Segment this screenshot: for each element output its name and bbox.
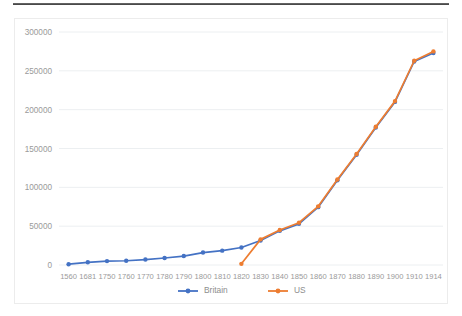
x-axis-tick-label: 1830 [252, 272, 269, 281]
x-axis-tick-label: 1780 [156, 272, 173, 281]
y-axis-tick-label: 0 [47, 261, 52, 270]
legend-label-us[interactable]: US [294, 285, 306, 295]
x-axis-tick-label: 1870 [329, 272, 346, 281]
data-point-britain[interactable] [220, 248, 224, 252]
x-axis-tick-label: 1860 [310, 272, 327, 281]
legend-marker-us [276, 289, 281, 294]
legend-marker-britain [186, 289, 191, 294]
data-point-us[interactable] [278, 228, 282, 232]
data-point-us[interactable] [258, 237, 262, 241]
chart-legend: BritainUS [178, 285, 306, 295]
y-axis-tick-label: 300000 [25, 28, 53, 37]
x-axis-tick-label: 1820 [233, 272, 250, 281]
chart-plot-wrapper: 050000100000150000200000250000300000 156… [15, 19, 449, 305]
y-axis-tick-labels: 050000100000150000200000250000300000 [25, 28, 53, 270]
data-point-us[interactable] [335, 177, 339, 181]
legend-label-britain[interactable]: Britain [204, 285, 228, 295]
gridlines-group [59, 32, 443, 265]
data-point-britain[interactable] [66, 262, 70, 266]
y-axis-tick-label: 100000 [25, 183, 53, 192]
x-axis-tick-labels: 1560168117501760177017801790180018101820… [60, 272, 442, 281]
data-point-britain[interactable] [105, 259, 109, 263]
x-axis-tick-label: 1910 [406, 272, 423, 281]
data-point-britain[interactable] [86, 260, 90, 264]
data-point-britain[interactable] [182, 254, 186, 258]
data-point-britain[interactable] [201, 250, 205, 254]
series-line-britain [69, 53, 434, 264]
data-point-us[interactable] [239, 262, 243, 266]
line-chart: 050000100000150000200000250000300000 156… [15, 19, 449, 305]
x-axis-tick-label: 1890 [367, 272, 384, 281]
x-axis-tick-label: 1800 [195, 272, 212, 281]
data-point-britain[interactable] [143, 257, 147, 261]
data-point-us[interactable] [354, 152, 358, 156]
x-axis-tick-label: 1560 [60, 272, 77, 281]
top-divider-rule [13, 3, 449, 5]
data-point-us[interactable] [374, 125, 378, 129]
x-axis-tick-label: 1840 [271, 272, 288, 281]
x-axis-tick-label: 1900 [387, 272, 404, 281]
data-point-us[interactable] [316, 204, 320, 208]
x-axis-tick-label: 1750 [99, 272, 116, 281]
data-series-group [66, 49, 435, 266]
chart-container: 050000100000150000200000250000300000 156… [14, 18, 448, 304]
x-axis-tick-label: 1681 [79, 272, 96, 281]
data-point-britain[interactable] [124, 259, 128, 263]
y-axis-tick-label: 200000 [25, 106, 53, 115]
y-axis-tick-label: 50000 [29, 222, 52, 231]
x-axis-tick-label: 1880 [348, 272, 365, 281]
data-point-us[interactable] [431, 49, 435, 53]
data-point-us[interactable] [412, 59, 416, 63]
x-axis-tick-label: 1760 [118, 272, 135, 281]
data-point-britain[interactable] [239, 245, 243, 249]
data-point-britain[interactable] [162, 256, 166, 260]
data-point-us[interactable] [297, 220, 301, 224]
x-axis-tick-label: 1770 [137, 272, 154, 281]
x-axis-tick-label: 1790 [175, 272, 192, 281]
y-axis-tick-label: 250000 [25, 67, 53, 76]
data-point-us[interactable] [393, 99, 397, 103]
y-axis-tick-label: 150000 [25, 145, 53, 154]
x-axis-tick-label: 1810 [214, 272, 231, 281]
x-axis-tick-label: 1914 [425, 272, 442, 281]
x-axis-tick-label: 1850 [291, 272, 308, 281]
